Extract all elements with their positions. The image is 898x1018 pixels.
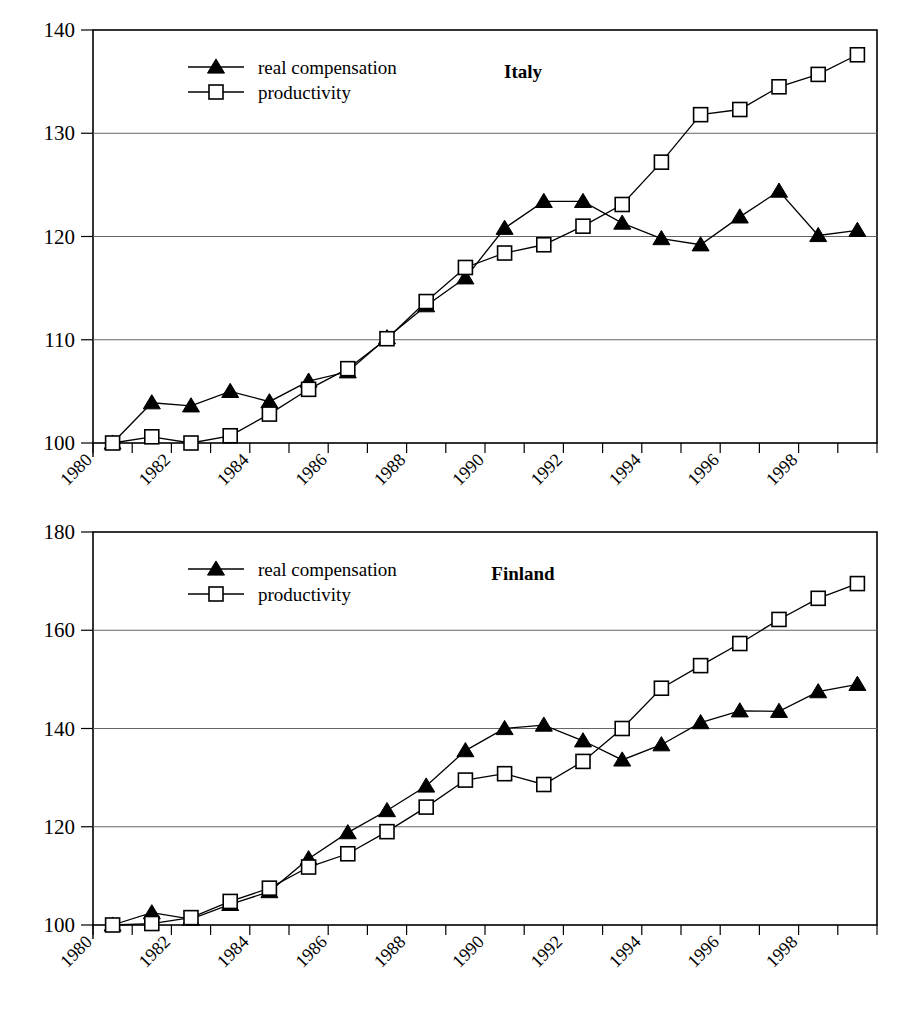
data-point-productivity	[458, 773, 472, 787]
xtick-label: 1994	[605, 450, 645, 490]
data-point-productivity	[694, 108, 708, 122]
data-point-real-compensation	[575, 193, 592, 207]
data-point-real-compensation	[457, 743, 474, 757]
data-point-productivity	[498, 767, 512, 781]
xtick-label: 1992	[527, 932, 567, 972]
xtick-label: 1996	[683, 932, 723, 972]
data-point-productivity	[772, 612, 786, 626]
xtick-label: 1998	[762, 450, 802, 490]
data-point-productivity	[106, 436, 120, 450]
data-point-productivity	[654, 155, 668, 169]
xtick-label: 1988	[370, 450, 410, 490]
data-point-productivity	[576, 219, 590, 233]
data-point-real-compensation	[535, 193, 552, 207]
data-point-productivity	[694, 659, 708, 673]
data-point-real-compensation	[535, 717, 552, 731]
ytick-label: 110	[44, 328, 75, 352]
series-line-productivity	[113, 584, 858, 925]
data-point-productivity	[458, 260, 472, 274]
data-point-productivity	[419, 295, 433, 309]
legend-label: real compensation	[258, 559, 397, 580]
data-point-real-compensation	[496, 220, 513, 234]
data-point-productivity	[341, 847, 355, 861]
legend-label: real compensation	[258, 57, 397, 78]
data-point-real-compensation	[771, 703, 788, 717]
xtick-label: 1990	[448, 932, 488, 972]
figure-root: 1001101201301401980198219841986198819901…	[0, 0, 898, 998]
data-point-real-compensation	[849, 676, 866, 690]
xtick-label: 1984	[213, 450, 253, 490]
chart-canvas-italy: 1001101201301401980198219841986198819901…	[0, 0, 898, 510]
data-point-real-compensation	[614, 215, 631, 229]
data-point-productivity	[772, 80, 786, 94]
triangle-marker-icon	[208, 59, 225, 73]
data-point-productivity	[733, 103, 747, 117]
data-point-real-compensation	[575, 733, 592, 747]
data-point-productivity	[811, 591, 825, 605]
series-line-real-compensation	[113, 191, 858, 443]
data-point-productivity	[341, 362, 355, 376]
data-point-productivity	[380, 332, 394, 346]
ytick-label: 120	[44, 225, 76, 249]
data-point-real-compensation	[731, 703, 748, 717]
data-point-productivity	[850, 577, 864, 591]
data-point-real-compensation	[731, 209, 748, 223]
data-point-productivity	[145, 917, 159, 931]
data-point-productivity	[811, 67, 825, 81]
chart-canvas-finland: 1001201401601801980198219841986198819901…	[0, 510, 898, 998]
data-point-productivity	[145, 430, 159, 444]
data-point-productivity	[537, 238, 551, 252]
ytick-label: 140	[44, 717, 76, 741]
data-point-productivity	[262, 407, 276, 421]
data-point-productivity	[850, 48, 864, 62]
square-marker-icon	[209, 85, 223, 99]
data-point-productivity	[537, 778, 551, 792]
xtick-label: 1996	[683, 450, 723, 490]
data-point-productivity	[576, 754, 590, 768]
ytick-label: 100	[44, 913, 76, 937]
data-point-productivity	[733, 637, 747, 651]
data-point-productivity	[615, 722, 629, 736]
xtick-label: 1982	[135, 450, 175, 490]
xtick-label: 1982	[135, 932, 175, 972]
data-point-real-compensation	[653, 230, 670, 244]
chart-title: Italy	[504, 61, 543, 82]
xtick-label: 1994	[605, 932, 645, 972]
data-point-productivity	[302, 382, 316, 396]
chart-title: Finland	[491, 563, 555, 584]
data-point-productivity	[380, 825, 394, 839]
xtick-label: 1990	[448, 450, 488, 490]
data-point-productivity	[654, 681, 668, 695]
ytick-label: 130	[44, 121, 76, 145]
series-line-real-compensation	[113, 684, 858, 925]
data-point-productivity	[498, 246, 512, 260]
data-point-productivity	[223, 429, 237, 443]
data-point-real-compensation	[771, 183, 788, 197]
triangle-marker-icon	[208, 561, 225, 575]
xtick-label: 1980	[56, 932, 96, 972]
xtick-label: 1984	[213, 932, 253, 972]
data-point-productivity	[184, 911, 198, 925]
data-point-real-compensation	[379, 802, 396, 816]
data-point-real-compensation	[849, 222, 866, 236]
data-point-real-compensation	[653, 737, 670, 751]
data-point-productivity	[223, 894, 237, 908]
xtick-label: 1986	[291, 450, 331, 490]
data-point-real-compensation	[614, 752, 631, 766]
ytick-label: 180	[44, 520, 76, 544]
data-point-productivity	[184, 436, 198, 450]
data-point-productivity	[262, 881, 276, 895]
ytick-label: 160	[44, 618, 76, 642]
data-point-real-compensation	[143, 395, 160, 409]
xtick-label: 1986	[291, 932, 331, 972]
data-point-real-compensation	[692, 715, 709, 729]
chart-italy: 1001101201301401980198219841986198819901…	[0, 0, 898, 510]
xtick-label: 1980	[56, 450, 96, 490]
ytick-label: 140	[44, 18, 76, 42]
square-marker-icon	[209, 587, 223, 601]
xtick-label: 1998	[762, 932, 802, 972]
legend-label: productivity	[258, 584, 351, 605]
data-point-real-compensation	[222, 383, 239, 397]
ytick-label: 120	[44, 815, 76, 839]
chart-finland: 1001201401601801980198219841986198819901…	[0, 510, 898, 998]
